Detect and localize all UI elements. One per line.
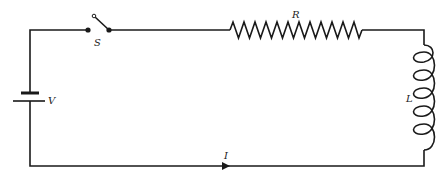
resistor-zigzag: [230, 22, 362, 38]
inductor-coil: [414, 45, 435, 150]
circuit-diagram: V S R L I: [0, 0, 443, 177]
label-inductor: L: [405, 93, 413, 104]
label-switch: S: [94, 37, 101, 48]
label-resistor: R: [291, 9, 300, 20]
label-current: I: [223, 150, 229, 161]
switch-blade: [95, 17, 109, 30]
switch-contact-left: [85, 27, 90, 32]
wire-left-top: [30, 30, 88, 93]
label-battery: V: [48, 95, 57, 106]
current-arrow-icon: [222, 162, 230, 170]
switch-pivot: [92, 14, 96, 18]
wire-top-right: [362, 30, 424, 45]
